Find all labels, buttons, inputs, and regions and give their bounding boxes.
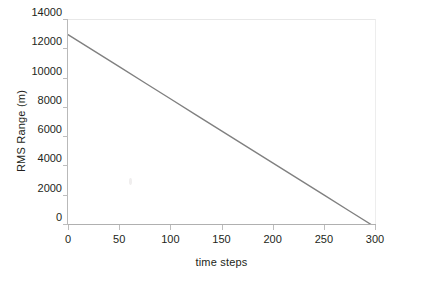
y-tick-label: 6000 [24,123,62,135]
y-tick-label: 8000 [24,94,62,106]
x-tick-label: 150 [200,232,244,246]
x-tick-label: 50 [97,232,141,246]
chart-figure: RMS Range (m) 02000400060008000100001200… [0,0,432,289]
y-tick-label: 14000 [24,6,62,18]
y-axis-tick-labels: 02000400060008000100001200014000 [24,12,62,228]
x-tick-mark [170,225,171,230]
y-tick-label: 0 [24,211,62,223]
plot-area [68,19,376,225]
x-tick-label: 250 [302,232,346,246]
x-tick-mark [324,225,325,230]
y-tick-mark [63,136,68,137]
y-tick-mark [63,19,68,20]
x-tick-mark [222,225,223,230]
y-tick-mark [63,78,68,79]
y-tick-mark [63,107,68,108]
x-tick-mark [119,225,120,230]
y-tick-mark [63,195,68,196]
x-tick-label: 200 [251,232,295,246]
y-tick-label: 2000 [24,182,62,194]
y-tick-label: 4000 [24,152,62,164]
x-axis-title: time steps [68,256,375,268]
y-tick-mark [63,165,68,166]
y-tick-mark [63,48,68,49]
y-tick-label: 10000 [24,65,62,77]
series-line-rms-range [68,35,372,225]
x-tick-mark [273,225,274,230]
y-tick-label: 12000 [24,35,62,47]
x-tick-label: 0 [46,232,90,246]
scan-speck-artifact [129,178,132,185]
x-tick-mark [68,225,69,230]
x-axis-tick-labels: 050100150200250300 [0,232,432,248]
x-tick-label: 100 [148,232,192,246]
x-tick-label: 300 [353,232,397,246]
data-series-svg [68,20,375,225]
x-tick-mark [375,225,376,230]
